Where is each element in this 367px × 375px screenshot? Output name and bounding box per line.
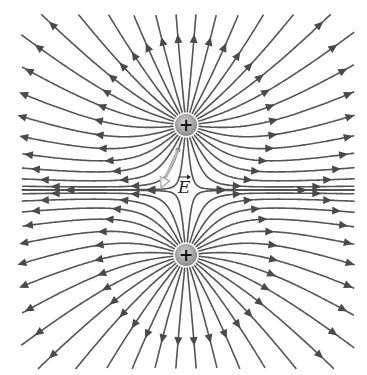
field-direction-arrow [233,190,242,198]
field-direction-arrow [17,258,27,266]
field-direction-arrow [190,34,198,43]
field-direction-arrow [132,319,140,329]
field-direction-arrow [268,241,278,249]
field-direction-arrow [258,216,267,224]
field-direction-arrow [190,337,198,346]
field-line [195,219,354,247]
field-direction-arrow [95,132,105,140]
field-direction-arrow [323,196,332,204]
field-direction-arrow [130,190,139,198]
bottom-charge: + [173,242,199,268]
field-line [22,199,181,244]
field-direction-arrow [233,182,242,190]
field-direction-arrow [24,221,33,229]
field-direction-arrow [205,37,213,47]
field-direction-arrow [31,165,40,173]
field-direction-arrow [40,196,49,204]
e-vector-label: E [178,179,190,196]
field-direction-arrow [339,151,348,159]
field-direction-arrow [328,327,338,336]
field-line [190,267,217,368]
field-direction-arrow [345,258,355,266]
field-line [156,15,183,113]
field-direction-arrow [268,132,278,140]
field-line [197,14,331,119]
field-direction-arrow [232,52,240,62]
field-direction-arrow [130,182,139,190]
field-direction-arrow [19,134,29,142]
field-direction-arrow [98,145,107,153]
plus-sign-icon: + [179,115,193,135]
e-vector-shaft [165,150,178,179]
field-direction-arrow [132,52,140,62]
plus-sign-icon: + [179,245,193,265]
field-direction-arrow [345,114,355,122]
field-line [155,267,182,368]
field-direction-arrow [17,114,27,122]
field-direction-arrow [343,134,353,142]
field-direction-arrow [266,269,276,277]
field-line [38,261,175,369]
field-line [41,14,175,119]
top-charge: + [173,112,199,138]
field-line [195,133,354,161]
field-direction-arrow [343,238,353,246]
field-direction-arrow [95,241,105,249]
field-direction-arrow [332,165,341,173]
field-direction-arrow [328,45,338,54]
field-direction-arrow [174,337,182,346]
field-direction-arrow [98,227,107,235]
field-direction-arrow [174,34,182,43]
field-direction-arrow [258,157,267,165]
field-direction-arrow [323,176,332,184]
field-direction-arrow [105,157,114,165]
field-line [198,243,355,264]
field-direction-arrow [19,238,29,246]
field-direction-arrow [205,333,213,343]
e-vector-label-text: E [178,177,190,197]
field-direction-arrow [97,104,107,111]
field-direction-arrow [97,269,107,276]
field-line [22,136,181,181]
field-direction-arrow [35,327,45,336]
field-direction-arrow [109,296,119,305]
field-line [197,261,334,369]
field-direction-arrow [40,176,49,184]
field-direction-arrow [265,227,274,235]
field-direction-arrow [31,207,40,215]
field-line [190,15,217,113]
field-direction-arrow [265,104,275,111]
field-direction-arrow [332,207,341,215]
field-direction-arrow [265,145,274,153]
field-direction-arrow [339,221,348,229]
field-direction-arrow [35,45,45,54]
vector-arrow-icon [179,174,192,180]
e-vector-arrowhead-icon [161,177,170,188]
field-direction-arrow [24,151,33,159]
field-direction-arrow [160,37,168,47]
field-direction-arrow [232,319,240,329]
field-direction-arrow [105,216,114,224]
field-direction-arrow [160,333,168,343]
field-line [198,115,355,137]
